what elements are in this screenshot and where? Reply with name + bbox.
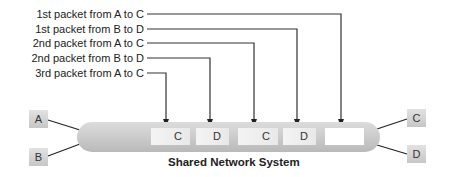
node-b: B (29, 148, 48, 166)
node-c: C (407, 109, 426, 127)
packet-label: 1st packet from B to D (4, 23, 144, 35)
packet-box: D (196, 128, 229, 145)
flow-line-4 (147, 58, 210, 126)
packet-label: 2nd packet from A to C (4, 37, 144, 49)
link-c (377, 119, 407, 129)
packet-box: C (238, 128, 278, 145)
link-d (377, 145, 407, 154)
link-a (48, 120, 80, 130)
flow-line-3 (147, 43, 254, 126)
packet-box (325, 128, 364, 145)
packet-label: 1st packet from A to C (4, 8, 144, 20)
flow-line-1 (147, 14, 341, 126)
network-diagram: 1st packet from A to C 1st packet from B… (0, 0, 459, 177)
network-label: Shared Network System (168, 156, 300, 168)
link-b (48, 144, 80, 156)
node-a: A (29, 110, 48, 128)
flow-line-5 (147, 73, 166, 126)
packet-box: C (151, 128, 190, 145)
packet-label: 2nd packet from B to D (4, 52, 144, 64)
node-d: D (407, 145, 426, 163)
packet-label: 3rd packet from A to C (4, 67, 144, 79)
packet-box: D (283, 128, 316, 145)
